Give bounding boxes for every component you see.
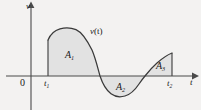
figure-canvas [0, 0, 201, 110]
tick-label-t2: t2 [167, 79, 172, 88]
t-axis-arrowhead [192, 73, 199, 80]
v-axis-label: v [26, 2, 30, 11]
area-label-a1-subscript: 1 [71, 54, 74, 61]
t-axis-label: t [190, 78, 193, 87]
tick-label-t2-subscript: 2 [170, 83, 173, 89]
tick-label-t1: t1 [44, 79, 49, 88]
area-label-a2-subscript: 2 [122, 86, 125, 93]
area-label-a2: A2 [116, 82, 125, 92]
tick-label-t1-subscript: 1 [47, 83, 50, 89]
curve-label-vt: v(t) [90, 27, 103, 36]
curve-label-vt-arg: (t) [94, 26, 103, 36]
velocity-area-figure: v t 0 t1 t2 v(t) A1 A2 A3 [0, 0, 201, 110]
area-label-a3: A3 [156, 61, 165, 71]
area-label-a3-subscript: 3 [162, 65, 165, 72]
area-label-a1: A1 [65, 50, 74, 60]
origin-label: 0 [20, 78, 25, 88]
